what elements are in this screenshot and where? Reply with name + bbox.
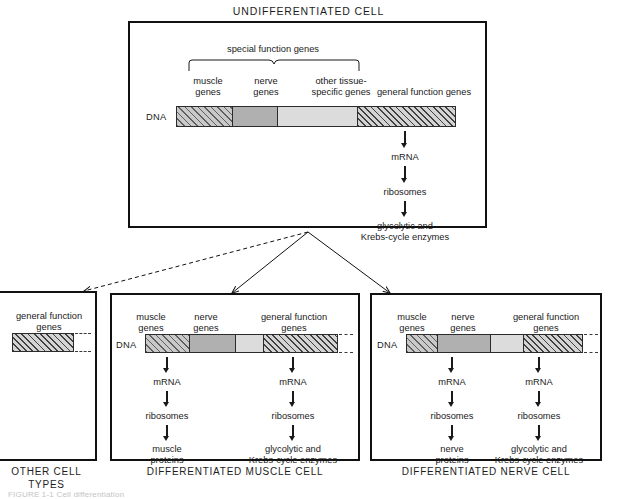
muscle-segment-label-general-function-genes: general function genes: [245, 312, 343, 333]
dna-segment-nerve-genes: [190, 335, 237, 352]
dna-dash-bottom-muscle: [339, 352, 353, 353]
dna-segment-general-function-genes: [264, 335, 337, 352]
muscle-segment-label-nerve-genes: nerve genes: [180, 312, 232, 333]
dna-segment-muscle-genes: [407, 335, 438, 352]
muscle-right-pathway-mrna: mRNA: [263, 377, 323, 388]
dna-label-nerve-cell: DNA: [377, 340, 398, 350]
dna-segment-general-function-genes: [524, 335, 582, 352]
dna-label-undifferentiated: DNA: [146, 112, 167, 122]
dna-segment-general-function-genes: [358, 107, 455, 126]
dna-dash-top-nerve: [584, 334, 598, 335]
nerve-left-pathway-ribosomes: ribosomes: [418, 411, 486, 422]
special-function-genes-label: special function genes: [190, 44, 356, 55]
dna-bar-undifferentiated: [176, 106, 456, 127]
dna-bar-muscle-cell: [145, 334, 338, 353]
pathway-enzymes-undiff: glycolytic and Krebs-cycle enzymes: [341, 221, 469, 242]
dna-segment-other-tissue: [491, 335, 524, 352]
undifferentiated-cell-title: UNDIFFERENTIATED CELL: [0, 5, 617, 17]
pathway-mrna-undiff: mRNA: [375, 152, 435, 163]
dna-label-muscle-cell: DNA: [116, 340, 137, 350]
arrow-to-other-cell-types: [84, 232, 308, 291]
muscle-left-pathway-product: muscle proteins: [137, 444, 197, 465]
nerve-segment-label-muscle-genes: muscle genes: [383, 312, 441, 333]
muscle-right-pathway-product: glycolytic and Krebs-cycle enzymes: [229, 444, 357, 465]
dna-segment-nerve-genes: [438, 335, 491, 352]
segment-label-muscle-genes: muscle genes: [178, 76, 238, 97]
muscle-left-pathway-mrna: mRNA: [137, 377, 197, 388]
nerve-right-pathway-ribosomes: ribosomes: [505, 411, 573, 422]
figure-caption-fragment: FIGURE 1-1 Cell differentiation: [8, 490, 124, 499]
dna-segment-nerve-genes: [233, 107, 279, 126]
nerve-cell-caption: DIFFERENTIATED NERVE CELL: [370, 466, 602, 479]
other-cell-types-segment-label: general function genes: [5, 311, 93, 332]
muscle-left-pathway-ribosomes: ribosomes: [133, 411, 201, 422]
nerve-segment-label-general-function-genes: general function genes: [497, 312, 595, 333]
dna-bar-nerve-cell: [406, 334, 583, 353]
nerve-segment-label-nerve-genes: nerve genes: [437, 312, 489, 333]
dna-segment-muscle-genes: [146, 335, 190, 352]
dna-dash-bottom-nerve: [584, 352, 598, 353]
other-cell-types-caption: OTHER CELL TYPES: [0, 466, 97, 491]
segment-label-general-function-genes: general function genes: [362, 87, 486, 98]
nerve-left-pathway-mrna: mRNA: [422, 377, 482, 388]
special-function-genes-brace: [188, 58, 360, 72]
dna-segment-other-tissue: [236, 335, 264, 352]
dna-segment-muscle-genes: [177, 107, 233, 126]
nerve-left-pathway-product: nerve proteins: [422, 444, 482, 465]
nerve-right-pathway-mrna: mRNA: [509, 377, 569, 388]
dna-dash-bottom-other: [75, 351, 91, 352]
pathway-ribosomes-undiff: ribosomes: [371, 187, 439, 198]
nerve-right-pathway-product: glycolytic and Krebs-cycle enzymes: [475, 444, 603, 465]
muscle-segment-label-muscle-genes: muscle genes: [122, 312, 180, 333]
arrow-to-muscle-cell: [232, 232, 308, 293]
dna-bar-other-cell-types: [12, 333, 74, 352]
dna-segment-other-tissue: [278, 107, 357, 126]
segment-label-nerve-genes: nerve genes: [238, 76, 294, 97]
dna-dash-top-muscle: [339, 334, 353, 335]
muscle-cell-caption: DIFFERENTIATED MUSCLE CELL: [110, 466, 360, 479]
dna-dash-top-other: [75, 333, 91, 334]
dna-segment-general-function-genes: [13, 334, 73, 351]
muscle-right-pathway-ribosomes: ribosomes: [259, 411, 327, 422]
